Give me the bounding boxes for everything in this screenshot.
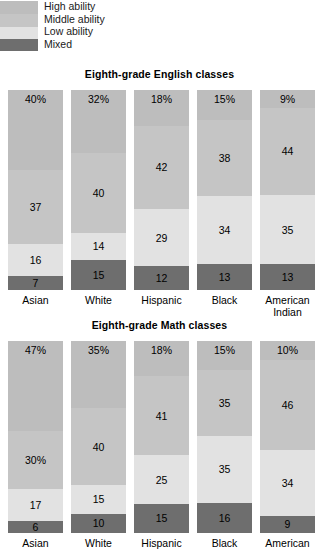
bar-segment-middle-ability[interactable]: 40 [71,153,126,232]
bar-segment-low-ability[interactable]: 34 [197,196,252,264]
bar-segment-high-ability[interactable]: 10% [260,341,315,360]
bar-segment-middle-ability[interactable]: 42 [134,126,189,209]
stacked-bar[interactable]: 18%412515 [134,341,189,533]
bar-segment-value: 38 [197,152,252,164]
axis-tick-label: Hispanic [130,290,193,306]
bar-segment-low-ability[interactable]: 35 [197,436,252,503]
bar-segment-value: 42 [134,161,189,173]
stacked-bar[interactable]: 32%401415 [71,90,126,290]
bar-segment-value: 40 [71,187,126,199]
axis-tick-label-line: Black [212,537,238,549]
legend-swatch-column [0,1,38,51]
axis-tick-label-line: American [265,294,309,306]
chart-english-classes: Eighth-grade English classes AsianWhiteH… [0,58,319,313]
axis-tick-label-line: Hispanic [141,294,181,306]
axis-tick-label-line: Black [212,294,238,306]
axis-tick-label: White [67,290,130,306]
bar-segment-middle-ability[interactable]: 40 [71,408,126,485]
bar-segment-high-ability[interactable]: 35% [71,341,126,408]
axis-tick-label: White [67,533,130,549]
bar-segment-value: 37 [8,201,63,213]
bar-segment-mixed[interactable]: 12 [134,266,189,290]
axis-tick-label-line: White [85,537,112,549]
bar-segment-mixed[interactable]: 16 [197,503,252,533]
axis-tick-label: Asian [4,290,67,306]
axis-tick-label-line: American [265,537,309,549]
bar-segment-value: 18% [134,93,189,105]
axis-tick-label: Hispanic [130,533,193,549]
legend-label-1: Middle ability [44,13,105,26]
bar-segment-value: 13 [260,271,315,283]
bar-segment-middle-ability[interactable]: 44 [260,108,315,195]
bar-segment-mixed[interactable]: 13 [197,264,252,290]
bar-group-english-hispanic[interactable]: 18%422912 [134,90,189,290]
bar-segment-mixed[interactable]: 6 [8,521,63,533]
bar-segment-middle-ability[interactable]: 38 [197,120,252,196]
bar-segment-value: 10% [260,344,315,356]
bar-segment-mixed[interactable]: 9 [260,516,315,533]
stacked-bar[interactable]: 18%422912 [134,90,189,290]
bar-group-math-black[interactable]: 15%353516 [197,341,252,533]
stacked-bar[interactable]: 40%37167 [8,90,63,290]
bar-segment-value: 14 [71,240,126,252]
bar-segment-high-ability[interactable]: 15% [197,90,252,120]
plot-area-english: AsianWhiteHispanicBlackAmericanIndian 40… [0,90,319,290]
bar-segment-high-ability[interactable]: 47% [8,341,63,431]
bar-segment-value: 15% [197,344,252,356]
bar-segment-high-ability[interactable]: 18% [134,341,189,376]
bar-segment-low-ability[interactable]: 17 [8,489,63,522]
bar-group-english-black[interactable]: 15%383413 [197,90,252,290]
bar-segment-value: 35 [260,224,315,236]
bar-segment-value: 29 [134,232,189,244]
stacked-bar[interactable]: 15%383413 [197,90,252,290]
bar-segment-high-ability[interactable]: 15% [197,341,252,370]
bar-segment-low-ability[interactable]: 29 [134,209,189,266]
chart-math-classes: Eighth-grade Math classes AsianWhiteHisp… [0,313,319,551]
bar-group-math-hispanic[interactable]: 18%412515 [134,341,189,533]
bar-segment-mixed[interactable]: 10 [71,514,126,533]
bar-segment-value: 40 [71,441,126,453]
bar-segment-high-ability[interactable]: 18% [134,90,189,126]
bar-segment-mixed[interactable]: 13 [260,264,315,290]
bar-group-math-asian[interactable]: 47%30%176 [8,341,63,533]
bar-segment-low-ability[interactable]: 25 [134,455,189,503]
axis-tick-label-line: Asian [22,537,48,549]
stacked-bar[interactable]: 10%46349 [260,341,315,533]
axis-labels-math: AsianWhiteHispanicBlackAmerican [0,533,319,551]
bar-segment-low-ability[interactable]: 15 [71,485,126,514]
bar-segment-high-ability[interactable]: 32% [71,90,126,153]
bar-segment-value: 7 [8,277,63,289]
bar-segment-mixed[interactable]: 7 [8,276,63,290]
axis-tick-label: Black [193,533,256,549]
bar-group-english-american-indian[interactable]: 9%443513 [260,90,315,290]
bar-group-math-american[interactable]: 10%46349 [260,341,315,533]
stacked-bar[interactable]: 15%353516 [197,341,252,533]
bar-segment-value: 34 [260,477,315,489]
legend-label-2: Low ability [44,25,105,38]
axis-tick-label-line: Hispanic [141,537,181,549]
bar-group-english-white[interactable]: 32%401415 [71,90,126,290]
bar-segment-low-ability[interactable]: 16 [8,244,63,276]
bar-segment-value: 35 [197,463,252,475]
stacked-bar[interactable]: 47%30%176 [8,341,63,533]
bar-segment-low-ability[interactable]: 35 [260,195,315,264]
bar-segment-middle-ability[interactable]: 46 [260,360,315,449]
bar-segment-mixed[interactable]: 15 [71,260,126,290]
stacked-bar[interactable]: 35%401510 [71,341,126,533]
bar-segment-middle-ability[interactable]: 35 [197,370,252,437]
bar-group-english-asian[interactable]: 40%37167 [8,90,63,290]
bar-segment-value: 41 [134,410,189,422]
bar-segment-middle-ability[interactable]: 30% [8,431,63,489]
bar-segment-middle-ability[interactable]: 41 [134,376,189,456]
bar-segment-low-ability[interactable]: 14 [71,233,126,261]
bar-segment-mixed[interactable]: 15 [134,504,189,533]
bar-segment-value: 6 [8,521,63,533]
bar-segment-value: 35 [197,397,252,409]
bar-group-math-white[interactable]: 35%401510 [71,341,126,533]
stacked-bar[interactable]: 9%443513 [260,90,315,290]
bar-segment-high-ability[interactable]: 40% [8,90,63,170]
legend-swatch-2 [0,27,38,39]
bar-segment-middle-ability[interactable]: 37 [8,170,63,244]
bar-segment-high-ability[interactable]: 9% [260,90,315,108]
bar-segment-low-ability[interactable]: 34 [260,450,315,516]
